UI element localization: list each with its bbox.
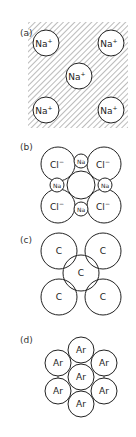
na-ion: Na+ <box>33 97 59 123</box>
svg-text:C: C <box>56 246 62 256</box>
svg-text:Ar: Ar <box>99 358 109 368</box>
na-ion: Na+ <box>98 97 124 123</box>
svg-text:C: C <box>100 246 106 256</box>
svg-text:Ar: Ar <box>53 386 63 396</box>
cl-ion: Cl− <box>87 189 121 223</box>
na-small-ion: Na <box>74 202 88 216</box>
svg-text:Na: Na <box>101 182 109 189</box>
ar-atom: Ar <box>45 378 71 404</box>
svg-text:Na: Na <box>53 182 61 189</box>
cl-ion: Cl− <box>41 189 75 223</box>
ar-atom: Ar <box>68 337 94 363</box>
svg-text:Ar: Ar <box>99 386 109 396</box>
svg-text:C: C <box>100 292 106 302</box>
ar-atom: Ar <box>68 391 94 417</box>
svg-text:Ar: Ar <box>76 345 86 355</box>
svg-text:Ar: Ar <box>53 358 63 368</box>
bonding-diagram: Na+ Na+ Na+ Na+ Na+ Cl− Cl− <box>0 0 136 437</box>
svg-text:Ar: Ar <box>76 399 86 409</box>
svg-text:Na: Na <box>77 158 85 165</box>
svg-text:Na: Na <box>77 206 85 213</box>
ar-atom-center: Ar <box>68 364 94 390</box>
ar-atom: Ar <box>45 350 71 376</box>
panel-a-metallic: Na+ Na+ Na+ Na+ Na+ <box>28 22 128 128</box>
cl-ion: Cl− <box>87 147 121 181</box>
cl-ion: Cl− <box>41 147 75 181</box>
panel-d-vanderwaals: Ar Ar Ar Ar Ar Ar Ar <box>45 337 117 417</box>
svg-text:Ar: Ar <box>76 372 86 382</box>
na-ion: Na+ <box>33 30 59 56</box>
svg-text:C: C <box>78 268 84 278</box>
na-small-ion: Na <box>98 178 112 192</box>
svg-text:C: C <box>56 292 62 302</box>
panel-b-ionic: Cl− Cl− Cl− Cl− Na Na Na Na <box>41 147 121 223</box>
na-ion: Na+ <box>66 63 92 89</box>
na-ion: Na+ <box>98 30 124 56</box>
ar-atom: Ar <box>91 378 117 404</box>
na-small-ion: Na <box>74 154 88 168</box>
ar-atom: Ar <box>91 350 117 376</box>
na-small-ion: Na <box>50 178 64 192</box>
